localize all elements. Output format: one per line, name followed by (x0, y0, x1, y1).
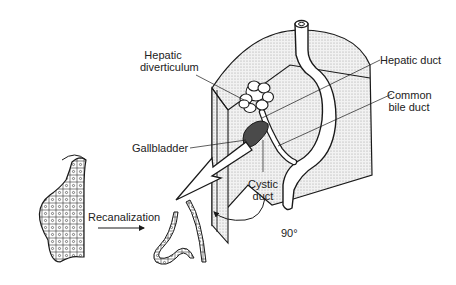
label-line: Hepatic (128, 49, 198, 61)
label-line: diverticulum (128, 61, 198, 73)
label-line: duct (246, 190, 280, 202)
label-line: Cystic (246, 178, 280, 190)
label-gallbladder: Gallbladder (132, 142, 188, 154)
label-line: Common (387, 89, 431, 101)
embryo-block (212, 30, 372, 243)
label-rotation: 90° (281, 227, 298, 239)
diagram-canvas (0, 0, 456, 285)
recanalized-ducts (154, 200, 206, 264)
label-cystic-duct: Cystic duct (246, 178, 280, 202)
label-common-bile-duct: Common bile duct (387, 89, 431, 113)
label-hepatic-duct: Hepatic duct (380, 54, 441, 66)
label-recanalization: Recanalization (88, 211, 160, 223)
label-hepatic-diverticulum: Hepatic diverticulum (128, 49, 198, 73)
solid-bud (39, 158, 86, 262)
label-line: bile duct (387, 101, 431, 113)
